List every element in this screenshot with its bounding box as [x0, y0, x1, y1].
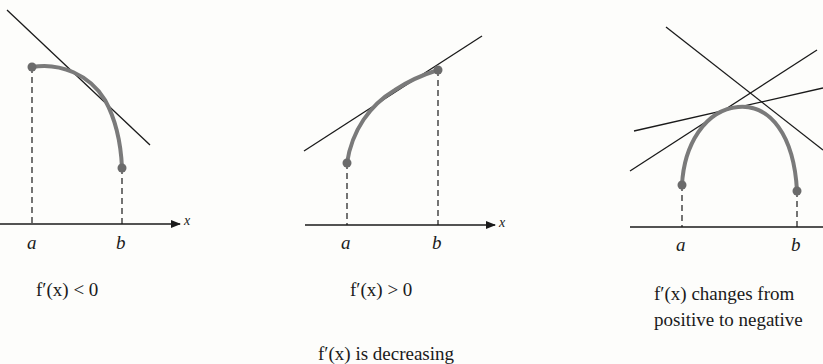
concave-down-curve	[32, 66, 122, 168]
label-a: a	[676, 235, 686, 254]
caption-derivative-changes-sign: f′(x) changes from positive to negative	[654, 281, 803, 333]
tangent-line-negative	[666, 27, 823, 150]
panel-1-graph	[0, 10, 180, 224]
label-b: b	[432, 233, 442, 252]
caption-line-1: f′(x) changes from	[654, 281, 803, 307]
axis-label-x: x	[499, 216, 505, 230]
overall-caption: f′(x) is decreasing	[318, 344, 454, 363]
label-a: a	[27, 233, 37, 252]
caption-derivative-positive: f′(x) > 0	[350, 280, 412, 299]
label-b: b	[791, 235, 801, 254]
label-a: a	[341, 233, 351, 252]
endpoint-a	[678, 181, 687, 190]
arch-curve	[682, 107, 797, 191]
panel-2-graph	[304, 36, 495, 225]
caption-line-2: positive to negative	[654, 307, 803, 333]
endpoint-a	[28, 63, 37, 72]
endpoint-b	[434, 66, 443, 75]
label-b: b	[116, 233, 126, 252]
endpoint-a	[343, 159, 352, 168]
caption-derivative-negative: f′(x) < 0	[36, 280, 98, 299]
axis-label-x: x	[184, 214, 190, 228]
tangent-line	[7, 10, 150, 145]
endpoint-b	[118, 164, 127, 173]
endpoint-b	[793, 187, 802, 196]
concave-down-curve	[347, 70, 438, 163]
panel-3-graph	[630, 27, 823, 227]
